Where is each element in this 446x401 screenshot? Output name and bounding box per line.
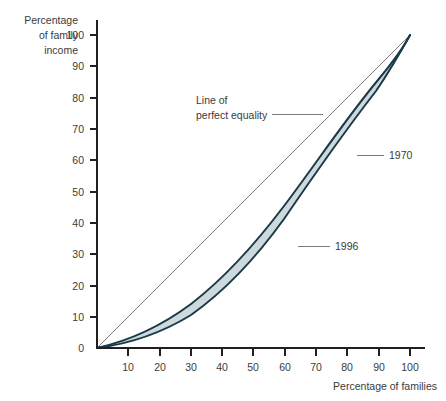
- x-tick-label-30: 30: [185, 361, 197, 373]
- x-tick-label-10: 10: [122, 361, 134, 373]
- x-axis-ticks: [128, 348, 410, 356]
- x-tick-label-80: 80: [341, 361, 353, 373]
- y-tick-label-90: 90: [72, 60, 84, 72]
- y-tick-label-30: 30: [72, 248, 84, 260]
- annotation-1996: 1996: [298, 240, 359, 252]
- curve-label-1970: 1970: [389, 149, 413, 161]
- x-tick-label-40: 40: [216, 361, 228, 373]
- y-tick-label-20: 20: [72, 280, 84, 292]
- y-tick-label-40: 40: [72, 217, 84, 229]
- y-tick-label-100: 100: [66, 29, 84, 41]
- y-tick-label-50: 50: [72, 186, 84, 198]
- curve-label-1996: 1996: [335, 240, 359, 252]
- y-axis-title-line-1: Percentage: [24, 14, 78, 26]
- x-tick-label-100: 100: [401, 361, 419, 373]
- lorenz-curve-figure: Percentage of family income 1: [0, 0, 446, 401]
- annotation-1970: 1970: [357, 149, 413, 161]
- x-tick-label-50: 50: [247, 361, 259, 373]
- y-tick-label-70: 70: [72, 123, 84, 135]
- y-axis-title-line-3: income: [44, 44, 78, 56]
- x-tick-label-20: 20: [154, 361, 166, 373]
- x-tick-label-90: 90: [373, 361, 385, 373]
- y-tick-label-10: 10: [72, 311, 84, 323]
- y-tick-label-80: 80: [72, 92, 84, 104]
- equality-label-line-2: perfect equality: [196, 109, 268, 121]
- annotation-perfect-equality: Line of perfect equality: [196, 94, 323, 121]
- x-axis-tick-labels: 10 20 30 40 50 60 70 80 90 100: [122, 361, 419, 373]
- x-tick-label-70: 70: [310, 361, 322, 373]
- line-of-perfect-equality: [97, 35, 410, 348]
- y-axis-ticks: [90, 35, 97, 317]
- x-axis-title: Percentage of families: [333, 380, 437, 392]
- y-axis-tick-labels: 100 90 80 70 60 50 40 30 20 10 0: [66, 29, 84, 354]
- x-tick-label-60: 60: [279, 361, 291, 373]
- y-tick-label-0: 0: [78, 342, 84, 354]
- y-tick-label-60: 60: [72, 154, 84, 166]
- chart-svg: Percentage of family income 1: [0, 0, 446, 401]
- equality-label-line-1: Line of: [196, 94, 228, 106]
